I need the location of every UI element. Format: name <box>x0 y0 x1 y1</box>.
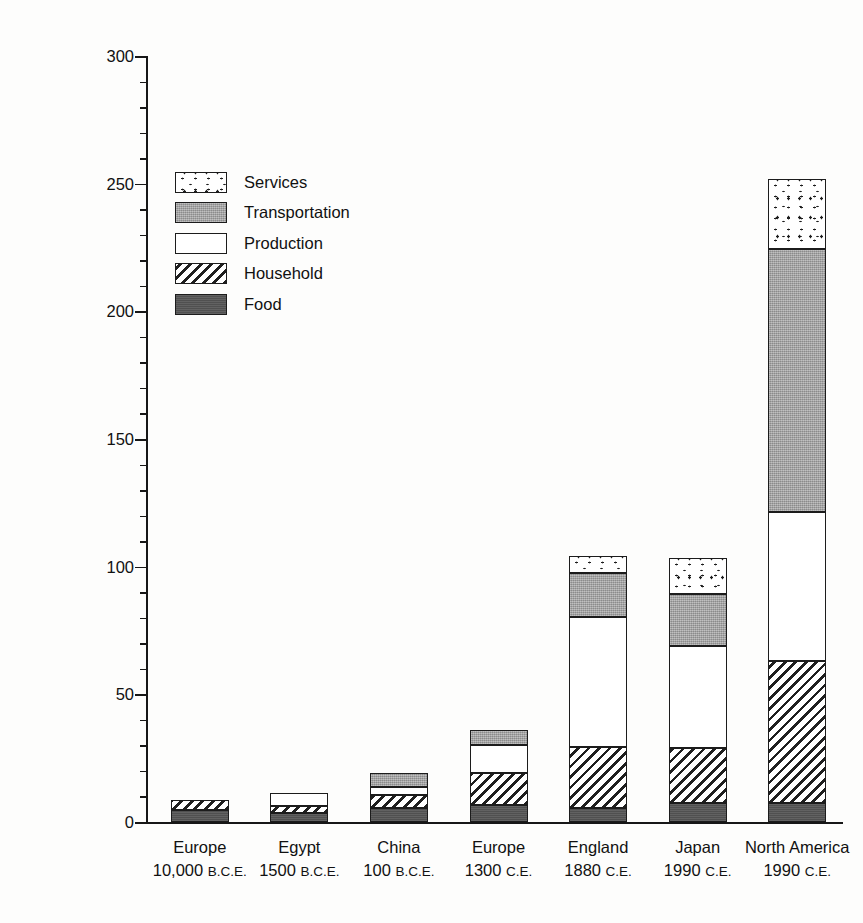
y-tick-minor-110 <box>140 541 146 543</box>
bar-segment-services[interactable] <box>669 558 727 594</box>
bar-segment-transportation[interactable] <box>370 773 428 787</box>
x-axis-label-6: North America1990 C.E. <box>732 836 862 883</box>
legend-swatch-food <box>175 294 227 315</box>
y-tick-label-50: 50 <box>88 686 134 703</box>
y-tick-minor-220 <box>140 260 146 262</box>
y-tick-major-100 <box>135 567 146 569</box>
legend-item-food[interactable]: Food <box>175 289 445 320</box>
bar-segment-food[interactable] <box>270 813 328 822</box>
y-tick-label-0: 0 <box>88 814 134 831</box>
bar-segment-production[interactable] <box>569 617 627 747</box>
bar-segment-transportation[interactable] <box>669 594 727 646</box>
y-tick-minor-160 <box>140 413 146 415</box>
y-tick-minor-190 <box>140 337 146 339</box>
bar-segment-transportation[interactable] <box>470 730 528 745</box>
legend-item-household[interactable]: Household <box>175 259 445 290</box>
y-tick-minor-210 <box>140 286 146 288</box>
bar-england-1880-c-e[interactable] <box>569 56 627 822</box>
x-label-year-era: 1990 C.E. <box>732 859 862 882</box>
y-tick-minor-30 <box>140 745 146 747</box>
y-tick-minor-20 <box>140 771 146 773</box>
y-tick-major-150 <box>135 439 146 441</box>
y-tick-label-200: 200 <box>88 303 134 320</box>
y-tick-minor-140 <box>140 465 146 467</box>
bar-segment-household[interactable] <box>470 773 528 805</box>
y-tick-minor-230 <box>140 235 146 237</box>
legend-item-services[interactable]: Services <box>175 167 445 198</box>
y-tick-minor-240 <box>140 209 146 211</box>
y-tick-minor-90 <box>140 592 146 594</box>
bar-segment-food[interactable] <box>569 808 627 822</box>
legend-label-transportation: Transportation <box>244 203 350 222</box>
bar-segment-transportation[interactable] <box>768 249 826 512</box>
energy-consumption-chart: Per-Capita Energy Consumption (billion j… <box>0 0 863 923</box>
y-tick-label-150: 150 <box>88 431 134 448</box>
bar-japan-1990-c-e[interactable] <box>669 56 727 822</box>
bar-segment-household[interactable] <box>270 806 328 813</box>
y-axis-title: Per-Capita Energy Consumption (billion j… <box>0 0 46 923</box>
legend-swatch-household <box>175 263 227 284</box>
x-axis-labels: Europe10,000 B.C.E.Egypt1500 B.C.E.China… <box>146 836 843 906</box>
y-tick-major-0 <box>135 822 146 824</box>
legend-swatch-transportation <box>175 202 227 223</box>
bar-segment-production[interactable] <box>370 787 428 795</box>
y-tick-minor-120 <box>140 516 146 518</box>
y-tick-major-300 <box>135 56 146 58</box>
legend-item-production[interactable]: Production <box>175 228 445 259</box>
bar-segment-household[interactable] <box>669 748 727 803</box>
y-axis-line <box>146 56 148 822</box>
y-tick-minor-260 <box>140 158 146 160</box>
x-axis-line <box>146 822 843 824</box>
y-tick-label-300: 300 <box>88 48 134 65</box>
y-tick-minor-70 <box>140 643 146 645</box>
bar-segment-production[interactable] <box>270 793 328 806</box>
bar-segment-services[interactable] <box>569 556 627 573</box>
bar-segment-food[interactable] <box>768 803 826 822</box>
y-tick-minor-290 <box>140 82 146 84</box>
y-axis-tick-labels: 300 250 200 150 100 50 0 <box>88 56 134 822</box>
legend-item-transportation[interactable]: Transportation <box>175 198 445 229</box>
legend-swatch-services <box>175 172 227 193</box>
bar-segment-food[interactable] <box>669 803 727 822</box>
legend-label-production: Production <box>244 234 323 253</box>
bar-segment-food[interactable] <box>470 805 528 822</box>
y-tick-minor-180 <box>140 362 146 364</box>
bar-segment-production[interactable] <box>669 646 727 748</box>
bar-segment-food[interactable] <box>370 808 428 822</box>
y-tick-label-100: 100 <box>88 559 134 576</box>
bar-segment-production[interactable] <box>768 512 826 661</box>
bar-segment-transportation[interactable] <box>569 573 627 617</box>
y-tick-minor-40 <box>140 720 146 722</box>
legend-label-household: Household <box>244 264 323 283</box>
bar-segment-household[interactable] <box>569 747 627 808</box>
y-tick-minor-130 <box>140 490 146 492</box>
y-tick-major-50 <box>135 694 146 696</box>
legend: ServicesTransportationProductionHousehol… <box>175 167 445 320</box>
y-tick-minor-270 <box>140 133 146 135</box>
y-tick-minor-10 <box>140 796 146 798</box>
x-label-place: North America <box>732 836 862 859</box>
y-tick-minor-60 <box>140 669 146 671</box>
y-tick-major-200 <box>135 311 146 313</box>
y-tick-minor-280 <box>140 107 146 109</box>
legend-swatch-production <box>175 233 227 254</box>
bar-segment-services[interactable] <box>768 179 826 249</box>
bar-segment-household[interactable] <box>171 800 229 810</box>
bar-segment-production[interactable] <box>470 745 528 773</box>
bar-europe-1300-c-e[interactable] <box>470 56 528 822</box>
y-tick-label-250: 250 <box>88 176 134 193</box>
legend-label-services: Services <box>244 173 307 192</box>
bar-segment-food[interactable] <box>171 810 229 822</box>
bar-segment-household[interactable] <box>370 795 428 808</box>
bar-segment-household[interactable] <box>768 661 826 803</box>
legend-label-food: Food <box>244 295 282 314</box>
y-tick-major-250 <box>135 184 146 186</box>
y-tick-minor-80 <box>140 618 146 620</box>
bar-north-america-1990-c-e[interactable] <box>768 56 826 822</box>
y-tick-minor-170 <box>140 388 146 390</box>
